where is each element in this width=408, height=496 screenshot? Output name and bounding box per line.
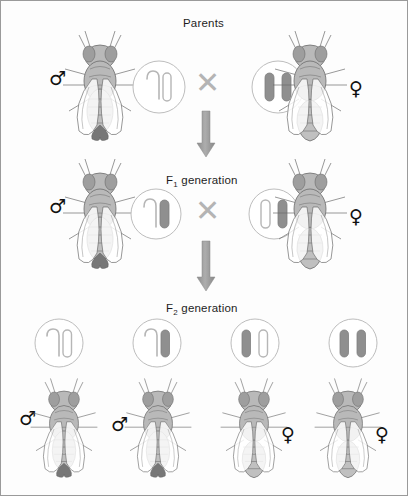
f2-chromosome-circle-3: [227, 315, 283, 371]
f2-offspring-3-sex-symbol: ♀: [281, 425, 295, 444]
f2-chromosome-circle-2: [129, 315, 185, 371]
f1-label-suffix: generation: [178, 174, 238, 186]
genetics-cross-diagram: Parents ♂ ✕: [0, 0, 408, 496]
f2-offspring-2-fly: [121, 369, 195, 489]
f2-offspring-4-sex-symbol: ♀: [375, 425, 389, 444]
parent-female-sex-symbol: ♀: [349, 79, 363, 98]
f2-offspring-4-fly: [311, 369, 385, 489]
f2-chromosome-circle-4: [325, 315, 381, 371]
parents-cross-symbol: ✕: [195, 68, 220, 98]
f1-male-chromosome-circle: [127, 185, 185, 243]
parents-label: Parents: [183, 17, 224, 29]
f1-cross-symbol: ✕: [195, 196, 220, 226]
arrow-parents-to-f1: [194, 111, 218, 159]
f2-label-suffix: generation: [178, 302, 238, 314]
f2-offspring-3-fly: [217, 369, 291, 489]
parent-male-chromosome-circle: [129, 57, 189, 117]
f1-female-fly: [269, 153, 351, 277]
arrow-f1-to-f2: [194, 241, 218, 293]
f1-female-sex-symbol: ♀: [349, 207, 363, 226]
f2-chromosome-circle-1: [31, 315, 87, 371]
f2-offspring-1-fly: [27, 369, 101, 489]
parent-female-fly: [269, 25, 351, 149]
